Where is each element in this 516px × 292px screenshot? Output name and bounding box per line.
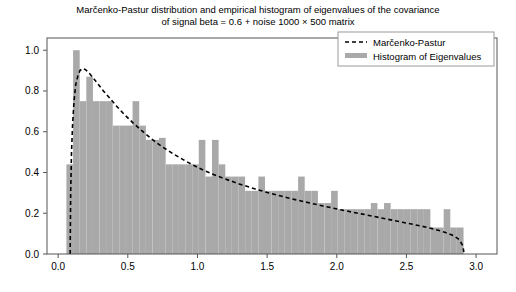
- legend-label-marcenko-pastur: Marčenko-Pastur: [373, 37, 445, 48]
- histogram-bar: [391, 209, 398, 254]
- histogram-bar: [311, 191, 318, 254]
- histogram-bar: [106, 101, 113, 254]
- histogram-bar: [325, 203, 332, 254]
- histogram-bar: [377, 209, 384, 254]
- histogram-bar: [126, 126, 133, 254]
- histogram-bar: [238, 177, 245, 254]
- histogram-bar: [159, 138, 166, 254]
- x-tick-label: 2.5: [399, 261, 413, 272]
- histogram-bar: [133, 101, 140, 254]
- histogram-bar: [146, 140, 153, 254]
- histogram-bar: [437, 228, 444, 254]
- y-tick-label: 0.4: [25, 167, 39, 178]
- histogram-bar: [100, 101, 107, 254]
- histogram-bar: [318, 203, 325, 254]
- x-tick-label: 1.0: [191, 261, 205, 272]
- x-tick-label: 2.0: [330, 261, 344, 272]
- chart-title-line-2: of signal beta = 0.6 + noise 1000 × 500 …: [161, 16, 354, 27]
- histogram-bar: [172, 164, 179, 254]
- histogram-bar: [384, 203, 391, 254]
- histogram-bar: [119, 126, 126, 254]
- x-tick-label: 3.0: [469, 261, 483, 272]
- histogram-bar: [411, 209, 418, 254]
- histogram-bar: [86, 77, 93, 254]
- legend-bar-swatch-icon: [345, 53, 367, 58]
- histogram-bar: [66, 164, 73, 254]
- histogram-bar: [404, 209, 411, 254]
- histogram-bar: [450, 228, 457, 254]
- y-tick-label: 0.6: [25, 126, 39, 137]
- histogram-bar: [205, 177, 212, 254]
- histogram-bar: [430, 228, 437, 254]
- y-tick-label: 0.8: [25, 85, 39, 96]
- histogram-bar: [457, 228, 464, 254]
- histogram-bar: [113, 126, 120, 254]
- histogram-bar: [80, 101, 87, 254]
- histogram-bar: [199, 140, 206, 254]
- histogram-bar: [258, 177, 265, 254]
- histogram-bar: [73, 50, 80, 254]
- histogram-bar: [371, 203, 378, 254]
- histogram-bar: [351, 209, 358, 254]
- x-tick-label: 1.5: [260, 261, 274, 272]
- histogram-bar: [186, 164, 193, 254]
- histogram-bar: [331, 191, 338, 254]
- histogram-bar: [265, 191, 272, 254]
- histogram-bar: [424, 209, 431, 254]
- histogram-bar: [417, 209, 424, 254]
- histogram-bar: [278, 191, 285, 254]
- histogram-bar: [305, 191, 312, 254]
- y-tick-label: 1.0: [25, 45, 39, 56]
- chart-canvas: Marčenko-Pastur distribution and empiric…: [0, 0, 516, 292]
- histogram-bar: [272, 191, 279, 254]
- histogram-bar: [192, 164, 199, 254]
- chart-figure: Marčenko-Pastur distribution and empiric…: [0, 0, 516, 292]
- histogram-bar: [166, 164, 173, 254]
- chart-title-line-1: Marčenko-Pastur distribution and empiric…: [76, 4, 439, 15]
- histogram-bar: [298, 177, 305, 254]
- chart-legend: Marčenko-Pastur Histogram of Eigenvalues: [338, 32, 494, 66]
- histogram-bar: [212, 140, 219, 254]
- histogram-bar: [93, 101, 100, 254]
- histogram-bar: [252, 191, 259, 254]
- histogram-bar: [225, 177, 232, 254]
- x-tick-label: 0.0: [51, 261, 65, 272]
- histogram-bar: [338, 209, 345, 254]
- histogram-bar: [245, 191, 252, 254]
- histogram-bar: [152, 140, 159, 254]
- y-tick-label: 0.0: [25, 249, 39, 260]
- histogram-bar: [397, 209, 404, 254]
- histogram-bar: [179, 164, 186, 254]
- y-tick-label: 0.2: [25, 208, 39, 219]
- histogram-bar: [285, 191, 292, 254]
- histogram-bar: [344, 209, 351, 254]
- histogram-bar: [358, 209, 365, 254]
- histogram-bar: [232, 177, 239, 254]
- legend-label-histogram: Histogram of Eigenvalues: [373, 51, 481, 62]
- histogram-bar: [139, 126, 146, 254]
- x-tick-label: 0.5: [121, 261, 135, 272]
